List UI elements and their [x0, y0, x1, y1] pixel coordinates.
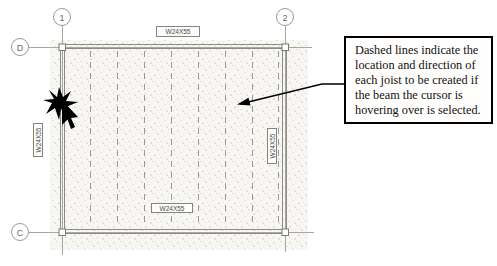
beam-tag-top: W24X55 [156, 26, 200, 37]
callout-text: Dashed lines indicate the location and d… [355, 43, 481, 117]
beam-tag-bottom: W24X55 [151, 203, 193, 213]
beam-tag-right: W24X55 [267, 128, 277, 164]
column-symbol [59, 229, 66, 236]
column-symbol [282, 229, 289, 236]
grid-bubble-1[interactable]: 1 [53, 8, 71, 26]
column-symbol [59, 44, 66, 51]
plan-view-figure: 1 2 D C W24X55 W24X55 W24X55 W24X55 Dash… [0, 0, 497, 266]
column-symbol [282, 44, 289, 51]
grid-bubble-c[interactable]: C [11, 223, 29, 241]
grid-bubble-2[interactable]: 2 [276, 8, 294, 26]
beam-tag-left: W24X55 [33, 123, 43, 157]
grid-bubble-d[interactable]: D [11, 38, 29, 56]
callout-box: Dashed lines indicate the location and d… [344, 36, 493, 124]
